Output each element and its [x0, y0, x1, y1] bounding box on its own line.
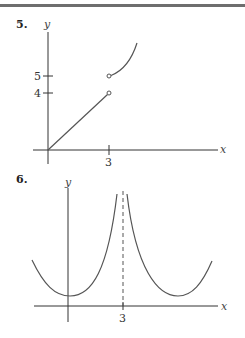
- x-tick-label-3: 3: [105, 156, 112, 169]
- left-branch-curve: [32, 194, 117, 296]
- x-tick-label-3: 3: [119, 312, 126, 325]
- right-branch-curve: [127, 194, 212, 296]
- y-tick-label-4: 4: [34, 87, 41, 100]
- open-circle-3-5: [107, 74, 111, 78]
- open-circle-3-4: [107, 91, 111, 95]
- graph-5: 5. y x 5 4 3: [16, 18, 227, 169]
- graph-6: 6. y x 3: [16, 173, 228, 325]
- curve-segment: [111, 43, 137, 76]
- linear-segment: [48, 95, 108, 151]
- y-axis-label-6: y: [64, 176, 72, 189]
- x-axis-label-6: x: [221, 300, 228, 313]
- problem-number-5: 5.: [16, 18, 27, 31]
- x-axis-label-5: x: [220, 143, 227, 156]
- y-axis-label-5: y: [43, 18, 51, 31]
- problem-number-6: 6.: [16, 173, 27, 186]
- y-tick-label-5: 5: [34, 70, 41, 83]
- figure-canvas: 5. y x 5 4 3 6. y x 3: [0, 0, 245, 338]
